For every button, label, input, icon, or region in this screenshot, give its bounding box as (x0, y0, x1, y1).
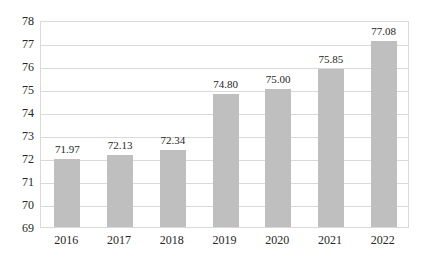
y-tick-label-69: 69 (22, 221, 34, 235)
gridline-77 (41, 45, 408, 46)
bar-data-label-2018: 72.34 (147, 134, 199, 147)
gridline-76 (41, 68, 408, 69)
bar-data-label-2021: 75.85 (305, 53, 357, 66)
y-tick-label-72: 72 (22, 152, 34, 166)
x-tick-label-2022: 2022 (357, 233, 409, 248)
bar-2021 (318, 69, 344, 227)
x-tick-label-2019: 2019 (199, 233, 251, 248)
bar-data-label-2022: 77.08 (358, 25, 410, 38)
plot-area: 71.9772.1372.3474.8075.0075.8577.08 (40, 21, 409, 228)
bar-2020 (265, 89, 291, 227)
x-tick-label-2020: 2020 (251, 233, 303, 248)
y-axis: 69707172737475767778 (0, 0, 34, 264)
bar-data-label-2017: 72.13 (94, 139, 146, 152)
y-tick-label-77: 77 (22, 37, 34, 51)
bar-chart: 69707172737475767778 71.9772.1372.3474.8… (0, 0, 422, 264)
bar-chart-figure: 69707172737475767778 71.9772.1372.3474.8… (0, 0, 422, 264)
x-tick-label-2016: 2016 (40, 233, 92, 248)
y-tick-label-71: 71 (22, 175, 34, 189)
x-tick-label-2018: 2018 (146, 233, 198, 248)
bar-2018 (160, 150, 186, 227)
bar-2019 (213, 94, 239, 227)
y-tick-label-73: 73 (22, 129, 34, 143)
x-axis: 2016201720182019202020212022 (40, 233, 409, 249)
bar-data-label-2019: 74.80 (200, 78, 252, 91)
bar-2016 (54, 159, 80, 227)
y-tick-label-76: 76 (22, 60, 34, 74)
gridline-75 (41, 91, 408, 92)
y-tick-label-78: 78 (22, 14, 34, 28)
x-tick-label-2021: 2021 (304, 233, 356, 248)
x-tick-label-2017: 2017 (93, 233, 145, 248)
bar-data-label-2016: 71.97 (41, 143, 93, 156)
y-tick-label-75: 75 (22, 83, 34, 97)
y-tick-label-74: 74 (22, 106, 34, 120)
bar-2022 (371, 41, 397, 227)
y-tick-label-70: 70 (22, 198, 34, 212)
bar-2017 (107, 155, 133, 227)
bar-data-label-2020: 75.00 (252, 73, 304, 86)
